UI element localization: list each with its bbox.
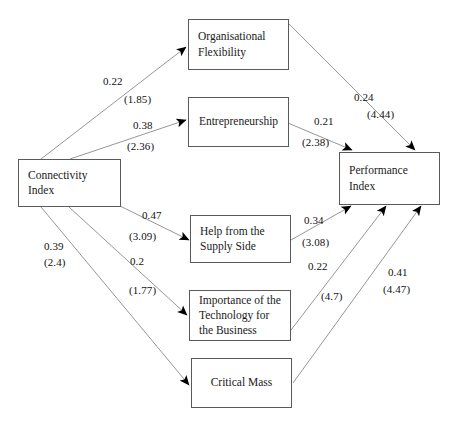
edge-label-connectivity-importance-tstat: (1.77) — [129, 285, 156, 297]
node-help-from-supply-side-label: Help from the Supply Side — [191, 224, 265, 254]
edge-label-importance-performance-coefficient: 0.22 — [308, 261, 328, 273]
edge-label-organisational-performance-tstat: (4.44) — [367, 109, 394, 121]
edge-label-help-performance-tstat: (3.08) — [302, 237, 329, 249]
edge-label-connectivity-help-coefficient: 0.47 — [142, 210, 162, 222]
edge-label-help-performance-coefficient: 0.34 — [304, 215, 324, 227]
node-organisational-flexibility-label: Organisational Flexibility — [189, 29, 266, 59]
edge-label-connectivity-organisational-tstat: (1.85) — [124, 94, 151, 106]
edge-label-connectivity-organisational-coefficient: 0.22 — [103, 76, 123, 88]
node-entrepreneurship-label: Entrepreneurship — [199, 114, 278, 129]
node-importance-of-technology-label: Importance of the Technology for the Bus… — [190, 293, 281, 339]
edge-label-critical-mass-performance-coefficient: 0.41 — [388, 267, 408, 279]
edge-label-connectivity-entrepreneurship-coefficient: 0.38 — [133, 120, 153, 132]
node-critical-mass[interactable]: Critical Mass — [191, 358, 292, 408]
node-performance-index[interactable]: Performance Index — [339, 152, 440, 205]
edge-label-organisational-performance-coefficient: 0.24 — [354, 92, 374, 104]
node-critical-mass-label: Critical Mass — [211, 375, 273, 390]
edge-label-entrepreneurship-performance-tstat: (2.38) — [302, 137, 329, 149]
edge-label-connectivity-importance-coefficient: 0.2 — [130, 256, 144, 268]
node-connectivity-index[interactable]: Connectivity Index — [18, 159, 121, 207]
node-importance-of-technology[interactable]: Importance of the Technology for the Bus… — [189, 290, 291, 341]
edge-connectivity-to-importance-technology — [69, 207, 187, 315]
edge-label-entrepreneurship-performance-coefficient: 0.21 — [314, 116, 334, 128]
edge-label-connectivity-critical-mass-tstat: (2.4) — [44, 257, 66, 269]
node-connectivity-index-label: Connectivity Index — [19, 168, 87, 198]
edge-label-critical-mass-performance-tstat: (4.47) — [383, 284, 410, 296]
edge-label-importance-performance-tstat: (4.7) — [321, 291, 343, 303]
node-help-from-supply-side[interactable]: Help from the Supply Side — [190, 215, 291, 263]
edge-label-connectivity-help-tstat: (3.09) — [129, 231, 156, 243]
edge-label-connectivity-entrepreneurship-tstat: (2.36) — [127, 141, 154, 153]
path-diagram: Connectivity Index Organisational Flexib… — [0, 0, 457, 424]
node-entrepreneurship[interactable]: Entrepreneurship — [188, 97, 289, 147]
edge-label-connectivity-critical-mass-coefficient: 0.39 — [44, 241, 64, 253]
node-performance-index-label: Performance Index — [340, 163, 408, 193]
edge-connectivity-to-organisational-flexibility — [41, 47, 186, 159]
node-organisational-flexibility[interactable]: Organisational Flexibility — [188, 19, 289, 70]
